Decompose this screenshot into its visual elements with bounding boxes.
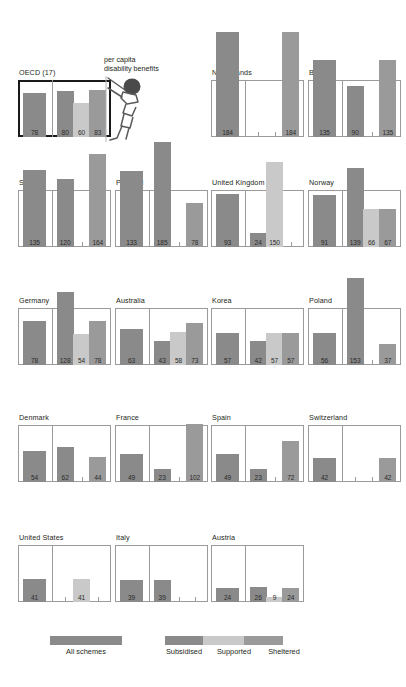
- bar-all-schemes: 49: [120, 454, 143, 482]
- legend-label-sheltered: Sheltered: [258, 647, 310, 656]
- bar-subsidised: 23: [154, 469, 171, 482]
- bar-supported: 58: [170, 332, 187, 365]
- country-panel: Belgium13590135: [308, 80, 401, 137]
- axis-tick: [291, 242, 292, 247]
- bar-value-label: 133: [120, 239, 143, 246]
- bar-supported: 66: [363, 209, 380, 247]
- panel-title: OECD (17): [19, 68, 55, 78]
- bar-value-label: 41: [23, 594, 46, 601]
- bar-supported: 9: [266, 597, 283, 602]
- panel-divider: [245, 190, 246, 247]
- bar-value-label: 37: [379, 357, 396, 364]
- country-panel: Poland5615337: [308, 308, 401, 365]
- country-panel: Italy3939: [115, 545, 208, 602]
- bar-subsidised: 185: [154, 142, 171, 247]
- bar-value-label: 120: [57, 239, 74, 246]
- bar-value-label: 135: [313, 129, 336, 136]
- panel-divider: [342, 190, 343, 247]
- country-panel: Denmark546244: [18, 425, 111, 482]
- panel-title: Italy: [116, 533, 130, 543]
- bar-all-schemes: 184: [216, 32, 239, 137]
- bar-value-label: 93: [216, 239, 239, 246]
- bar-value-label: 102: [186, 474, 203, 481]
- bar-value-label: 54: [73, 357, 90, 364]
- bar-all-schemes: 49: [216, 454, 239, 482]
- bar-value-label: 57: [282, 357, 299, 364]
- bar-value-label: 91: [313, 239, 336, 246]
- bar-supported: 150: [266, 162, 283, 248]
- bar-supported: 54: [73, 334, 90, 365]
- country-panel: OECD (17)78806083: [18, 80, 111, 137]
- legend-label-all-schemes: All schemes: [40, 647, 132, 656]
- bar-value-label: 44: [89, 474, 106, 481]
- bar-subsidised: 23: [250, 469, 267, 482]
- bar-all-schemes: 42: [313, 458, 336, 482]
- bar-subsidised: 39: [154, 580, 171, 602]
- bar-value-label: 62: [57, 474, 74, 481]
- country-panel: Switzerland4242: [308, 425, 401, 482]
- bar-value-label: 90: [347, 129, 364, 136]
- country-panel: Spain492372: [211, 425, 304, 482]
- bar-subsidised: 153: [347, 278, 364, 365]
- bar-value-label: 153: [347, 357, 364, 364]
- bar-all-schemes: 24: [216, 588, 239, 602]
- axis-tick: [82, 477, 83, 482]
- bar-all-schemes: 135: [23, 170, 46, 247]
- bar-sheltered: 24: [282, 588, 299, 602]
- bar-value-label: 24: [250, 239, 267, 246]
- bar-value-label: 42: [313, 474, 336, 481]
- panel-title: Denmark: [19, 413, 49, 423]
- bar-value-label: 135: [23, 239, 46, 246]
- bar-value-label: 66: [363, 239, 380, 246]
- bar-value-label: 23: [154, 474, 171, 481]
- bar-subsidised: 26: [250, 587, 267, 602]
- annotation-per-capita: per capita disability benefits: [104, 56, 184, 142]
- panel-divider: [52, 425, 53, 482]
- bar-sheltered: 44: [89, 457, 106, 482]
- country-panel: Netherlands184184: [211, 80, 304, 137]
- panel-title: Korea: [212, 296, 232, 306]
- panel-title: Germany: [19, 296, 49, 306]
- bar-value-label: 39: [154, 594, 171, 601]
- bar-value-label: 49: [120, 474, 143, 481]
- bar-value-label: 78: [186, 239, 203, 246]
- axis-tick: [372, 477, 373, 482]
- panel-title: Austria: [212, 533, 235, 543]
- bar-subsidised: 43: [154, 341, 171, 366]
- panel-title: France: [116, 413, 139, 423]
- bar-value-label: 80: [57, 129, 74, 136]
- bar-value-label: 73: [186, 357, 203, 364]
- bar-value-label: 23: [250, 474, 267, 481]
- panel-title: Spain: [212, 413, 231, 423]
- legend-swatch-supported: [203, 636, 244, 645]
- panel-divider: [342, 308, 343, 365]
- panel-divider: [149, 190, 150, 247]
- bar-subsidised: 62: [57, 447, 74, 482]
- bar-value-label: 54: [23, 474, 46, 481]
- panel-divider: [245, 80, 246, 137]
- bar-sheltered: 73: [186, 323, 203, 365]
- panel-title: Norway: [309, 178, 334, 188]
- panel-title: Switzerland: [309, 413, 347, 423]
- bar-sheltered: 67: [379, 209, 396, 247]
- panel-divider: [52, 545, 53, 602]
- panel-title: United Kingdom: [212, 178, 265, 188]
- bar-subsidised: 120: [57, 179, 74, 247]
- bar-all-schemes: 133: [120, 171, 143, 247]
- bar-supported: 57: [266, 333, 283, 365]
- panel-title: Poland: [309, 296, 332, 306]
- axis-tick: [179, 242, 180, 247]
- axis-tick: [258, 132, 259, 137]
- bar-value-label: 39: [120, 594, 143, 601]
- bar-all-schemes: 78: [23, 93, 46, 137]
- country-panel: France4923102: [115, 425, 208, 482]
- panel-divider: [149, 425, 150, 482]
- panel-divider: [245, 308, 246, 365]
- bar-subsidised: 24: [250, 233, 267, 247]
- bar-value-label: 139: [347, 239, 364, 246]
- panel-divider: [342, 425, 343, 482]
- bar-value-label: 26: [250, 594, 267, 601]
- bar-all-schemes: 56: [313, 333, 336, 365]
- country-panel: Sweden135120164: [18, 190, 111, 247]
- bar-sheltered: 42: [379, 458, 396, 482]
